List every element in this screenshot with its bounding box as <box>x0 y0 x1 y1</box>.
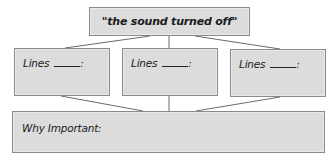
lines-blank-3 <box>270 67 296 68</box>
why-important-label: Why Important: <box>22 122 101 134</box>
lines-blank-2 <box>162 66 188 67</box>
lines-label-1: Lines: <box>23 57 84 69</box>
topic-text: "the sound turned off" <box>102 15 238 28</box>
why-important-box: Why Important: <box>12 111 325 153</box>
connector-left-bottom <box>61 96 143 111</box>
lines-blank-1 <box>54 66 80 67</box>
connector-right-bottom <box>196 97 280 111</box>
lines-box-2: Lines: <box>122 48 218 96</box>
topic-box: "the sound turned off" <box>89 7 250 36</box>
lines-box-1: Lines: <box>14 48 110 96</box>
lines-label-2: Lines: <box>131 57 192 69</box>
lines-label-3: Lines: <box>239 58 300 70</box>
connector-top-left <box>65 36 150 48</box>
lines-box-3: Lines: <box>230 49 326 97</box>
